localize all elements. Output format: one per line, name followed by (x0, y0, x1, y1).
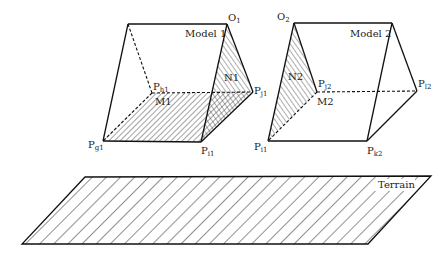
edge-pl2-pk2 (367, 91, 417, 141)
vertex-pl2-label: Pl2 (418, 78, 431, 91)
region-m1-label: M1 (155, 96, 172, 107)
terrain-surface (22, 176, 431, 244)
model-2: Model 2 O2 Pj2 Pl2 Pi1 Pk2 M2 N2 (254, 11, 431, 158)
model-1: Model 1 O1 Ph1 Pj1 Pg1 Pi1 M1 N1 (88, 12, 267, 158)
region-n2-label: N2 (288, 71, 303, 82)
vertex-ph1-label: Ph1 (153, 81, 169, 94)
region-n1 (201, 24, 253, 142)
region-n2 (268, 23, 317, 141)
vertex-pi1-label: Pi1 (201, 145, 214, 158)
vertex-pi1-m2-label: Pi1 (254, 141, 267, 154)
edge-hidden-2a (317, 91, 417, 92)
terrain-label: Terrain (378, 179, 416, 190)
edge-hidden-1a (128, 24, 152, 93)
model-2-label: Model 2 (350, 28, 391, 39)
terrain: Terrain (22, 176, 431, 244)
vertex-pk2-label: Pk2 (367, 145, 382, 158)
model-1-label: Model 1 (185, 28, 226, 39)
edge-top-right-pk2 (367, 23, 392, 141)
region-n1-label: N1 (224, 72, 239, 83)
vertex-pj2-label: Pj2 (318, 78, 331, 91)
vertex-pj1-label: Pj1 (254, 85, 267, 98)
vertex-pg1-label: Pg1 (88, 139, 104, 152)
vertex-o1-label: O1 (228, 12, 241, 25)
diagram-canvas: Model 1 O1 Ph1 Pj1 Pg1 Pi1 M1 N1 Model 2… (0, 0, 448, 262)
edge-top-right-pl2 (392, 23, 417, 91)
region-m2-label: M2 (317, 96, 334, 107)
vertex-o2-label: O2 (277, 11, 290, 24)
